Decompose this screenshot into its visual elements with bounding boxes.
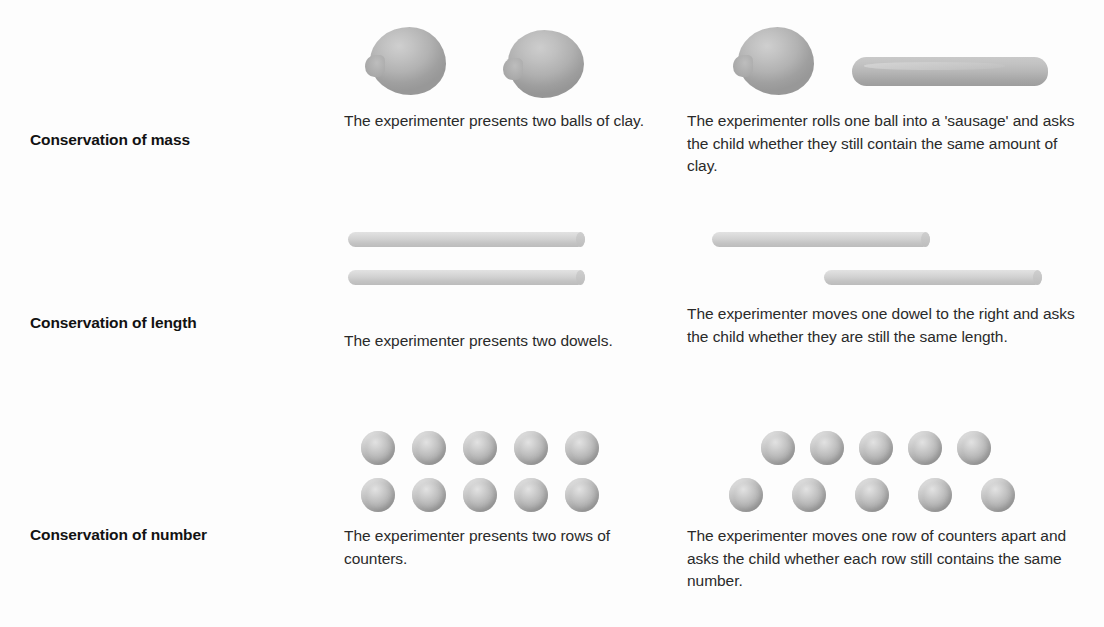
- counter-icon: [565, 431, 599, 465]
- caption-length-before: The experimenter presents two dowels.: [344, 330, 654, 353]
- clay-ball-icon: [508, 30, 584, 98]
- counter-icon: [514, 478, 548, 512]
- row-label-conservation-of-number: Conservation of number: [30, 526, 207, 544]
- caption-mass-after: The experimenter rolls one ball into a '…: [687, 110, 1087, 178]
- counter-icon: [855, 478, 889, 512]
- clay-ball-nub: [365, 55, 385, 77]
- clay-ball-icon: [370, 27, 446, 95]
- caption-mass-before: The experimenter presents two balls of c…: [344, 110, 654, 133]
- counter-icon: [981, 478, 1015, 512]
- row-label-conservation-of-length: Conservation of length: [30, 314, 197, 332]
- clay-sausage-icon: [852, 57, 1048, 86]
- counter-icon: [463, 431, 497, 465]
- counter-icon: [361, 431, 395, 465]
- clay-ball-nub: [733, 55, 753, 77]
- counter-icon: [729, 478, 763, 512]
- counter-icon: [463, 478, 497, 512]
- counter-icon: [412, 431, 446, 465]
- counter-icon: [918, 478, 952, 512]
- counter-icon: [514, 431, 548, 465]
- caption-length-after: The experimenter moves one dowel to the …: [687, 303, 1087, 348]
- conservation-tasks-figure: Conservation of mass The experimenter pr…: [0, 0, 1104, 627]
- counter-icon: [957, 431, 991, 465]
- dowel-icon: [824, 270, 1042, 285]
- caption-number-after: The experimenter moves one row of counte…: [687, 525, 1087, 593]
- counter-icon: [859, 431, 893, 465]
- clay-ball-nub: [503, 58, 523, 80]
- dowel-icon: [348, 270, 585, 285]
- dowel-icon: [712, 232, 930, 247]
- counter-icon: [761, 431, 795, 465]
- counter-icon: [565, 478, 599, 512]
- row-label-conservation-of-mass: Conservation of mass: [30, 131, 190, 149]
- clay-ball-icon: [738, 27, 814, 95]
- counter-icon: [412, 478, 446, 512]
- caption-number-before: The experimenter presents two rows of co…: [344, 525, 654, 570]
- counter-icon: [908, 431, 942, 465]
- counter-icon: [361, 478, 395, 512]
- dowel-icon: [348, 232, 585, 247]
- counter-icon: [792, 478, 826, 512]
- counter-icon: [810, 431, 844, 465]
